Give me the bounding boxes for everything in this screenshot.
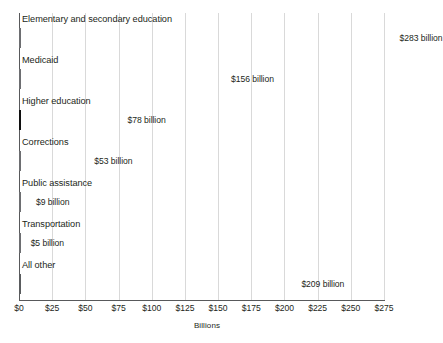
value-label: $5 billion xyxy=(31,238,64,248)
value-label: $53 billion xyxy=(94,156,132,166)
bar-row: Transportation$5 billion xyxy=(19,218,384,259)
bar[interactable] xyxy=(19,192,31,212)
bar-fill xyxy=(19,28,21,48)
bar-row: Higher education$78 billion xyxy=(19,95,384,136)
bar[interactable] xyxy=(19,274,296,294)
bar-row: Elementary and secondary education$283 b… xyxy=(19,13,384,54)
value-label: $9 billion xyxy=(36,197,69,207)
category-label: Higher education xyxy=(22,96,91,107)
category-label: Elementary and secondary education xyxy=(22,14,172,25)
bar-fill xyxy=(19,233,21,253)
bar[interactable] xyxy=(19,233,26,253)
bar[interactable] xyxy=(19,151,89,171)
x-axis-title: Billions xyxy=(0,321,432,330)
bar-fill xyxy=(19,69,21,89)
bar-row: Public assistance$9 billion xyxy=(19,177,384,218)
bar-fill xyxy=(19,151,21,171)
category-label: Transportation xyxy=(22,219,80,230)
x-tick-275: $275 xyxy=(364,303,404,313)
bar[interactable] xyxy=(19,110,123,130)
category-label: Corrections xyxy=(22,137,68,148)
category-label: Public assistance xyxy=(22,178,92,189)
gridline-275 xyxy=(384,13,385,300)
value-label: $209 billion xyxy=(301,279,344,289)
bar-row: Medicaid$156 billion xyxy=(19,54,384,95)
bar[interactable] xyxy=(19,28,395,48)
value-label: $283 billion xyxy=(400,33,443,43)
bar[interactable] xyxy=(19,69,226,89)
bar-row: All other$209 billion xyxy=(19,259,384,300)
plot-area: Elementary and secondary education$283 b… xyxy=(19,13,384,300)
category-label: Medicaid xyxy=(22,55,58,66)
category-label: All other xyxy=(22,260,55,271)
bar-fill xyxy=(19,110,21,130)
value-label: $156 billion xyxy=(231,74,274,84)
bar-row: Corrections$53 billion xyxy=(19,136,384,177)
x-axis-line xyxy=(19,300,385,301)
bar-fill xyxy=(19,192,21,212)
value-label: $78 billion xyxy=(128,115,166,125)
x-axis-title-text: Billions xyxy=(194,321,220,330)
bar-fill xyxy=(19,274,21,294)
